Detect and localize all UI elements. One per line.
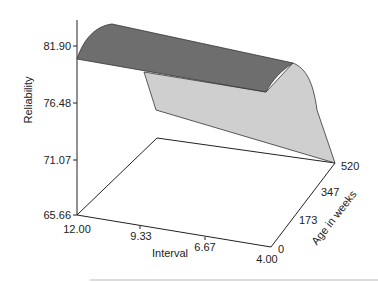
x-tick-label: 4.00 <box>256 253 277 265</box>
z-tick-label: 71.07 <box>43 154 71 166</box>
x-tick-label: 9.33 <box>130 230 151 242</box>
z-tick-label: 65.66 <box>43 209 71 221</box>
z-axis-title: Reliability <box>22 76 34 124</box>
x-axis-title: Interval <box>152 247 188 259</box>
y-tick-label: 347 <box>321 186 339 198</box>
y-tick-label: 0 <box>278 243 284 255</box>
z-tick-label: 81.90 <box>43 40 71 52</box>
reliability-surface-chart: 81.90 76.48 71.07 65.66 Reliability 12.0… <box>0 0 378 282</box>
x-axis-line <box>77 215 271 247</box>
x-tick-label: 12.00 <box>63 223 91 235</box>
z-tick-label: 76.48 <box>43 97 71 109</box>
z-axis-ticks: 81.90 76.48 71.07 65.66 <box>43 40 77 221</box>
y-tick-label: 520 <box>341 160 359 172</box>
y-tick-label: 173 <box>299 214 317 226</box>
x-tick-label: 6.67 <box>194 241 215 253</box>
